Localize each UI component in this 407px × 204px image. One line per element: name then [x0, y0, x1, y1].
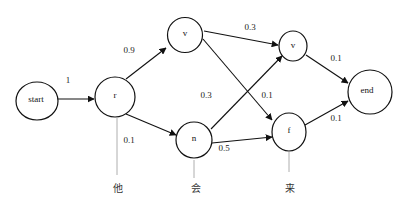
node-f: f: [272, 113, 306, 151]
node-v2-label: v: [291, 40, 296, 50]
node-n: n: [176, 122, 212, 158]
node-start-label: start: [28, 94, 44, 104]
edge-label-v2-end: 0.1: [330, 53, 341, 63]
node-v2: v: [279, 31, 307, 61]
word-label-hui: 会: [191, 182, 201, 194]
node-f-label: f: [288, 125, 291, 135]
edge-label-n-v2: 0.3: [200, 90, 212, 100]
edge-label-v1-v2: 0.3: [244, 22, 256, 32]
node-end: end: [348, 70, 392, 114]
word-label-ta: 他: [113, 182, 123, 194]
edge-v1-f: [203, 39, 272, 120]
edge-v1-v2: [204, 31, 278, 45]
word-label-lai: 来: [285, 183, 295, 194]
node-r-label: r: [114, 90, 117, 100]
node-v1: v: [168, 18, 203, 53]
edge-label-start-r: 1: [66, 75, 71, 85]
edge-label-f-end: 0.1: [330, 113, 341, 123]
node-end-label: end: [361, 85, 374, 95]
node-start: start: [16, 82, 58, 120]
edge-r-n: [126, 114, 176, 135]
node-n-label: n: [192, 133, 197, 143]
edge-v2-end: [306, 55, 348, 83]
node-r: r: [95, 77, 135, 117]
edge-label-n-f: 0.5: [218, 143, 230, 153]
state-graph-diagram: start r v n v f end 1 0.9 0.1 0.3 0.1 0.…: [0, 0, 407, 204]
edge-label-v1-f: 0.1: [261, 90, 272, 100]
node-v1-label: v: [183, 28, 188, 38]
edge-label-r-n: 0.1: [123, 135, 134, 145]
edge-label-r-v1: 0.9: [123, 45, 135, 55]
